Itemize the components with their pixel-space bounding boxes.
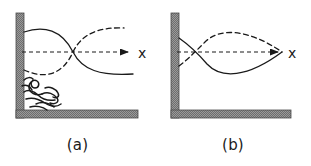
panel-a-caption: (a) — [0, 136, 155, 154]
vertical-wall — [16, 13, 24, 118]
horizontal-floor — [16, 110, 138, 118]
tangled-scribble — [22, 78, 61, 110]
wave-reflection-figure: (a) x — [0, 0, 311, 166]
panel-b-diagram — [155, 0, 311, 136]
vertical-wall — [171, 13, 179, 118]
panel-b: (b) x — [155, 0, 311, 166]
horizontal-floor — [171, 110, 291, 118]
panel-a: (a) x — [0, 0, 155, 166]
reflected-wave-dashed — [24, 28, 124, 75]
reflected-wave-dashed — [179, 33, 282, 66]
panel-a-diagram — [0, 0, 155, 136]
incident-wave-solid — [179, 38, 282, 74]
panel-b-caption: (b) — [155, 136, 311, 154]
